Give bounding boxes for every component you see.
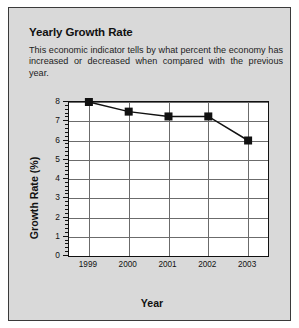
data-point-1999	[85, 98, 93, 106]
plot-area	[68, 101, 269, 257]
x-axis-title: Year	[21, 297, 283, 309]
y-tick-label-8: 8	[44, 97, 60, 105]
y-tick-label-0: 0	[44, 251, 60, 259]
page-title: Yearly Growth Rate	[29, 26, 133, 38]
growth-rate-series	[69, 102, 268, 256]
growth-rate-line-chart: Growth Rate (%) Year 012345678 199920002…	[21, 84, 283, 312]
data-point-2000	[125, 108, 133, 116]
data-point-2002	[204, 112, 212, 120]
y-tick-label-1: 1	[44, 232, 60, 240]
x-tick-label-1999: 1999	[68, 261, 108, 269]
series-line	[89, 102, 248, 141]
info-card: Yearly Growth Rate This economic indicat…	[8, 7, 291, 321]
data-point-2001	[165, 112, 173, 120]
y-tick-label-3: 3	[44, 193, 60, 201]
y-tick-label-5: 5	[44, 155, 60, 163]
y-tick-label-4: 4	[44, 174, 60, 182]
y-axis-title: Growth Rate (%)	[28, 157, 40, 239]
data-point-2003	[244, 137, 252, 145]
y-tick-label-7: 7	[44, 116, 60, 124]
description-line-1: This economic indicator tells by what pe…	[29, 45, 283, 55]
description-text: This economic indicator tells by what pe…	[29, 45, 283, 79]
x-tick-label-2000: 2000	[108, 261, 148, 269]
x-tick-label-2003: 2003	[227, 261, 267, 269]
y-tick-label-2: 2	[44, 213, 60, 221]
y-tick-label-6: 6	[44, 136, 60, 144]
x-tick-label-2002: 2002	[187, 261, 227, 269]
description-line-2: increased or decreased when compared wit…	[29, 56, 283, 77]
x-tick-label-2001: 2001	[148, 261, 188, 269]
